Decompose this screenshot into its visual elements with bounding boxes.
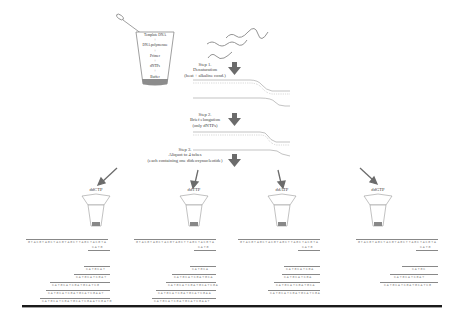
primer-sequence: CATG: [302, 245, 313, 249]
sequence-panel-ddttp: GTACGTAGCTACGTAGCTTAGCTACGTA CATG CATGCA…: [128, 236, 228, 306]
fragment: CATGCATCGATGCATCGAAT: [48, 291, 104, 295]
fragment: CATGCATCGATGCATCGA: [168, 283, 219, 287]
fragment: CATGCATCGATGCATCGA: [270, 291, 321, 295]
fragment: CATGCATCGATGCATCGAAT: [154, 299, 210, 303]
primer-sequence: CATG: [198, 245, 209, 249]
sequence-panel-ddgtp: GTACGTAGCTACGTAGCTTAGCTACGTA CATG CATGC …: [350, 236, 450, 306]
sequence-panel-ddctp: GTACGTAGCTACGTAGCTTAGCTACGTA CATG CATGCA…: [20, 236, 120, 306]
step3-label: Step 3. Aliquot to 4 tubes (each contain…: [140, 147, 230, 163]
primer-sequence: CATG: [92, 245, 103, 249]
fragment: CATGC: [412, 267, 426, 271]
fragment: CATGCATCGATGCATCGAATCGATG: [42, 299, 112, 303]
fragment: CATGCATCGATGCATCGAA: [158, 291, 211, 295]
step3-line2: (each containing one dideoxynucleotide): [140, 158, 230, 163]
fragment: CATGCA: [192, 267, 209, 271]
denatured-template-strand: [193, 80, 290, 106]
dna-strands-icon: [207, 28, 268, 58]
fragment: CATGCATCGA: [286, 267, 314, 271]
step1-line2: (heat + alkaline cond.): [180, 73, 230, 78]
stirring-spoon-icon: [116, 13, 142, 34]
template-sequence: GTACGTAGCTACGTAGCTTAGCTACGTA: [136, 240, 215, 244]
fragment: CATGCATCGATGCATCG: [384, 283, 432, 287]
fragment: CATGCATCGATGCATCG: [52, 283, 100, 287]
tube-label-ddttp: ddTTP: [182, 187, 206, 192]
sequence-panel-ddatp: GTACGTAGCTACGTAGCTTAGCTACGTA CATG CATGCA…: [232, 236, 332, 306]
fragment: CATGCATCGATGCA: [174, 275, 213, 279]
step2-line2: (only dNTPs): [180, 123, 230, 128]
tube-ddatp-icon: [268, 194, 296, 226]
template-sequence: GTACGTAGCTACGTAGCTTAGCTACGTA: [240, 240, 319, 244]
fragment: CATGCAT: [86, 267, 106, 271]
beaker-item: Buffer: [137, 75, 173, 80]
step1-label: Step 1. Denaturation (heat + alkaline co…: [180, 62, 230, 78]
primer-sequence: CATG: [420, 245, 431, 249]
template-sequence: GTACGTAGCTACGTAGCTTAGCTACGTA: [28, 240, 107, 244]
tube-ddttp-icon: [180, 194, 208, 226]
tube-label-ddatp: ddATP: [270, 187, 294, 192]
fragment: CATGCATCGAT: [76, 275, 107, 279]
template-sequence: GTACGTAGCTACGTAGCTTAGCTACGTA: [358, 240, 437, 244]
tube-ddctp-icon: [82, 194, 110, 226]
tube-label-ddctp: ddCTP: [84, 187, 108, 192]
step2-label: Step 2. Brief elongation (only dNTPs): [180, 112, 230, 128]
aliquot-arrows: [98, 168, 377, 188]
tube-ddgtp-icon: [364, 194, 392, 226]
fragment: CATGCATCGA: [284, 275, 312, 279]
fragment: CATGCATCGAT: [394, 275, 425, 279]
fragment: CATGCATCGATGCA: [276, 283, 315, 287]
beaker-contents: Template DNA + DNA polymerase + Primer +…: [137, 33, 173, 80]
tube-label-ddgtp: ddGTP: [366, 187, 390, 192]
